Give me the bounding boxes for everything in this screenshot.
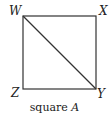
vertex-label-y: Y (97, 88, 105, 100)
vertex-label-z: Z (11, 87, 19, 99)
vertex-label-w: W (9, 5, 21, 17)
vertex-label-x: X (99, 5, 108, 17)
figure-caption: square A (0, 102, 109, 114)
diagonal-wy (23, 16, 96, 89)
caption-letter: A (71, 101, 79, 114)
diagram-canvas: W X Y Z square A (0, 0, 109, 119)
caption-word: square (30, 101, 68, 114)
